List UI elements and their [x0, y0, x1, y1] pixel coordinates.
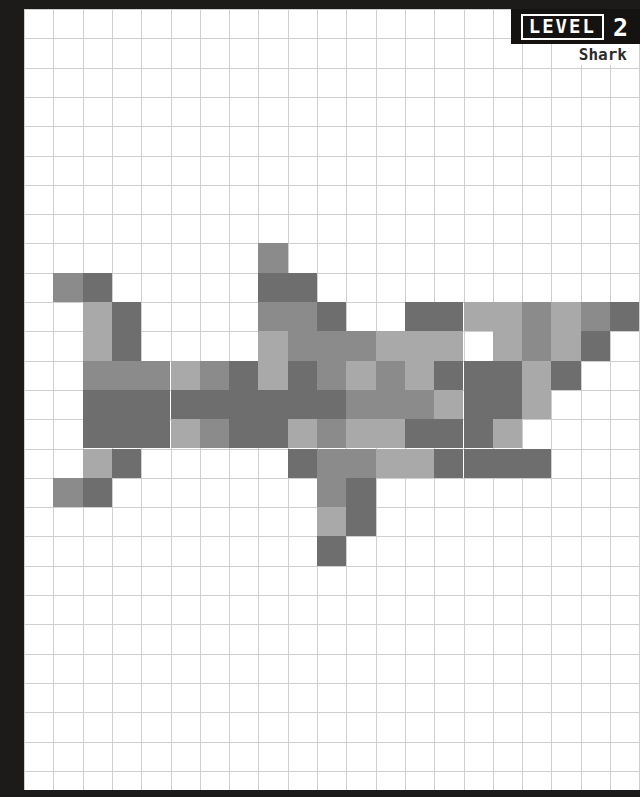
pixel-cell[interactable]: [317, 449, 346, 478]
pixel-cell[interactable]: [317, 419, 346, 448]
pixel-cell[interactable]: [522, 390, 551, 419]
pixel-cell[interactable]: [317, 478, 346, 507]
pixel-cell[interactable]: [376, 390, 405, 419]
pixel-cell[interactable]: [112, 449, 141, 478]
subject-label: Shark: [576, 44, 630, 65]
pixel-cell[interactable]: [376, 419, 405, 448]
pixel-cell[interactable]: [405, 419, 434, 448]
pixel-cell[interactable]: [551, 331, 580, 360]
pixel-cell[interactable]: [434, 361, 463, 390]
pixel-cell[interactable]: [346, 478, 375, 507]
pixel-cell[interactable]: [434, 302, 463, 331]
pixel-cell[interactable]: [464, 361, 493, 390]
pixel-cell[interactable]: [258, 302, 287, 331]
pixel-cell[interactable]: [493, 302, 522, 331]
pixel-cell[interactable]: [171, 390, 200, 419]
pixel-cell[interactable]: [141, 390, 170, 419]
pixel-cell[interactable]: [171, 419, 200, 448]
pixel-cell[interactable]: [288, 273, 317, 302]
pixel-cell[interactable]: [53, 273, 82, 302]
pixel-cell[interactable]: [288, 390, 317, 419]
pixel-cell[interactable]: [83, 419, 112, 448]
pixel-cell[interactable]: [346, 449, 375, 478]
pixel-cell[interactable]: [581, 331, 610, 360]
pixel-cell[interactable]: [288, 419, 317, 448]
pixel-cell[interactable]: [551, 361, 580, 390]
pixel-cell[interactable]: [317, 302, 346, 331]
pixel-cell[interactable]: [258, 419, 287, 448]
pixel-cell[interactable]: [434, 449, 463, 478]
pixel-cell[interactable]: [200, 361, 229, 390]
pixel-cell[interactable]: [434, 390, 463, 419]
pixel-cell[interactable]: [376, 449, 405, 478]
pixel-cell[interactable]: [83, 390, 112, 419]
pixel-cell[interactable]: [610, 302, 639, 331]
pixel-cell[interactable]: [405, 390, 434, 419]
pixel-cell[interactable]: [200, 390, 229, 419]
pixel-cell[interactable]: [317, 507, 346, 536]
pixel-cell[interactable]: [346, 361, 375, 390]
pixel-cell[interactable]: [288, 361, 317, 390]
pixel-cell[interactable]: [405, 302, 434, 331]
pixel-cell[interactable]: [229, 361, 258, 390]
pixel-cell[interactable]: [581, 302, 610, 331]
pixel-cell[interactable]: [83, 273, 112, 302]
pixel-cell[interactable]: [53, 478, 82, 507]
pixel-cell[interactable]: [229, 419, 258, 448]
pixel-cell[interactable]: [83, 302, 112, 331]
pixel-cell[interactable]: [405, 331, 434, 360]
pixel-cell[interactable]: [141, 361, 170, 390]
pixel-cell[interactable]: [405, 449, 434, 478]
pixel-cell[interactable]: [288, 302, 317, 331]
pixel-cell[interactable]: [317, 361, 346, 390]
pixel-cell[interactable]: [112, 302, 141, 331]
pixel-cell[interactable]: [112, 419, 141, 448]
pixel-cell[interactable]: [141, 419, 170, 448]
pixel-cell[interactable]: [522, 361, 551, 390]
pixel-cell[interactable]: [376, 361, 405, 390]
pixel-cell[interactable]: [258, 273, 287, 302]
pixel-cell[interactable]: [493, 419, 522, 448]
pixel-cell[interactable]: [493, 390, 522, 419]
pixel-cell[interactable]: [522, 302, 551, 331]
pixel-cell[interactable]: [112, 390, 141, 419]
pixel-cell[interactable]: [405, 361, 434, 390]
pixel-cell[interactable]: [258, 331, 287, 360]
pixel-cell[interactable]: [83, 478, 112, 507]
pixel-cell[interactable]: [112, 361, 141, 390]
pixel-cell[interactable]: [288, 449, 317, 478]
pixel-cell[interactable]: [493, 449, 522, 478]
pixel-cell[interactable]: [464, 390, 493, 419]
pixel-cell[interactable]: [229, 390, 258, 419]
pixel-cell[interactable]: [317, 331, 346, 360]
pixel-cell[interactable]: [346, 331, 375, 360]
pixel-cell[interactable]: [83, 331, 112, 360]
pixel-cell[interactable]: [83, 449, 112, 478]
pixel-cell[interactable]: [493, 331, 522, 360]
pixel-cell[interactable]: [346, 419, 375, 448]
pixel-cell[interactable]: [522, 331, 551, 360]
pixel-cell[interactable]: [258, 243, 287, 272]
pixel-cell[interactable]: [346, 507, 375, 536]
pixel-cell[interactable]: [171, 361, 200, 390]
pixel-cell[interactable]: [112, 331, 141, 360]
pixel-cell[interactable]: [464, 419, 493, 448]
pixel-cell[interactable]: [288, 331, 317, 360]
pixel-cell[interactable]: [258, 390, 287, 419]
pixel-cell[interactable]: [317, 536, 346, 565]
pixel-cells[interactable]: [24, 9, 640, 790]
pixel-cell[interactable]: [464, 302, 493, 331]
pixel-cell[interactable]: [551, 302, 580, 331]
pixel-cell[interactable]: [522, 449, 551, 478]
pixel-cell[interactable]: [376, 331, 405, 360]
pixel-cell[interactable]: [464, 449, 493, 478]
pixel-cell[interactable]: [493, 361, 522, 390]
pixel-cell[interactable]: [83, 361, 112, 390]
pixel-cell[interactable]: [434, 419, 463, 448]
pixel-cell[interactable]: [434, 331, 463, 360]
pixel-grid[interactable]: [24, 9, 640, 790]
pixel-cell[interactable]: [258, 361, 287, 390]
pixel-cell[interactable]: [200, 419, 229, 448]
pixel-cell[interactable]: [317, 390, 346, 419]
pixel-cell[interactable]: [346, 390, 375, 419]
